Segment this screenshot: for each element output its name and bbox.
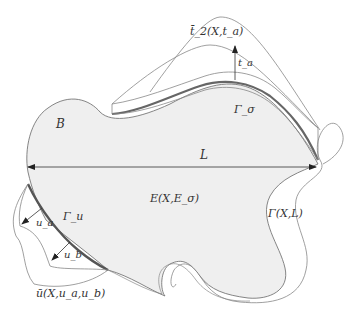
- displacement-boundary-label: Γ_u: [63, 211, 83, 222]
- displacement-b-label: u_b: [64, 250, 82, 260]
- outer-boundary-label: Γ(X,L): [268, 208, 303, 219]
- traction-magnitude-label: t_a: [238, 58, 253, 68]
- displacement-function-label: ū(X,u_a,u_b): [36, 288, 105, 299]
- body-label: B: [56, 118, 65, 130]
- traction-boundary-label: Γ_σ: [234, 104, 255, 115]
- displacement-a-label: u_a: [36, 218, 53, 228]
- young-modulus-label: E(X,E_σ): [150, 193, 199, 204]
- traction-function-label: t̄_2(X,t_a): [190, 26, 243, 37]
- length-label: L: [200, 149, 208, 161]
- boundary-value-problem-diagram: [0, 0, 363, 322]
